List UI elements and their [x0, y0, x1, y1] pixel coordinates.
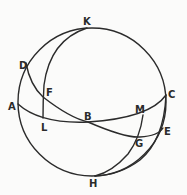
label-a: A [8, 101, 16, 112]
label-c: C [168, 89, 175, 100]
sphere-diagram: K D F A L B M C E G H [0, 0, 187, 195]
diagram-canvas: K D F A L B M C E G H [0, 0, 187, 195]
label-d: D [19, 60, 27, 71]
sphere-outline [18, 28, 166, 176]
label-b: B [84, 111, 92, 122]
label-m: M [135, 104, 145, 115]
label-f: F [46, 87, 53, 98]
label-e: E [164, 126, 171, 137]
label-g: G [135, 138, 143, 149]
label-h: H [89, 178, 97, 189]
arc-c-e-h [95, 95, 166, 176]
label-l: L [41, 122, 48, 133]
label-k: K [83, 16, 92, 27]
